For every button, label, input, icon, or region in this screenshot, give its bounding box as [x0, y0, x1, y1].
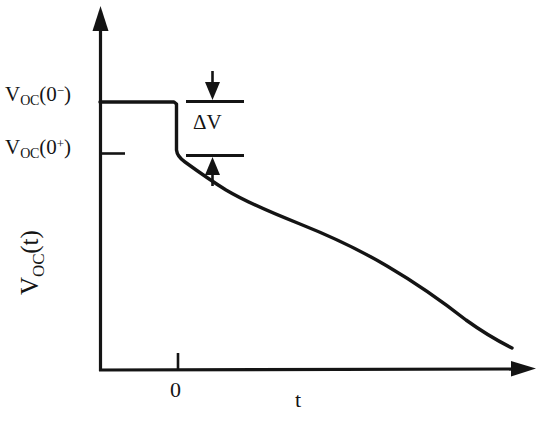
y-tick-label-voc-minus: VOC(0−): [5, 84, 71, 108]
x-axis-arrowhead-icon: [511, 361, 536, 377]
x-axis-line: [99, 369, 520, 370]
delta-v-down-arrow-icon: [205, 82, 220, 100]
voc-decay-curve: [100, 102, 512, 348]
voc-plus-symbol: V: [5, 135, 20, 159]
voc-minus-subscript: OC: [20, 93, 39, 108]
y-axis-title-symbol: V: [16, 277, 43, 295]
x-axis: [99, 361, 536, 377]
y-axis: [93, 6, 109, 371]
y-axis-arrowhead-icon: [93, 6, 109, 31]
y-tick-label-voc-plus: VOC(0+): [5, 137, 71, 161]
voc-plus-close-paren: ): [64, 135, 71, 159]
figure-root: VOC(0−) VOC(0+) ΔV VOC(t) 0 t: [0, 0, 540, 433]
y-axis-title-argument: (t): [16, 230, 43, 254]
voc-plus-subscript: OC: [20, 146, 39, 161]
delta-v-label: ΔV: [193, 112, 222, 133]
y-axis-title-subscript: OC: [29, 254, 48, 277]
x-axis-title: t: [295, 389, 301, 411]
x-tick-label-zero: 0: [170, 379, 181, 401]
chart-canvas: [0, 0, 540, 433]
voc-minus-close-paren: ): [64, 82, 71, 106]
delta-v-up-arrow-icon: [205, 157, 220, 175]
y-axis-title: VOC(t): [17, 208, 46, 318]
voc-minus-symbol: V: [5, 82, 20, 106]
voc-plus-value: 0: [46, 135, 57, 159]
voc-minus-value: 0: [46, 82, 57, 106]
voc-plus-superscript: +: [57, 136, 64, 151]
voc-minus-superscript: −: [57, 83, 64, 98]
